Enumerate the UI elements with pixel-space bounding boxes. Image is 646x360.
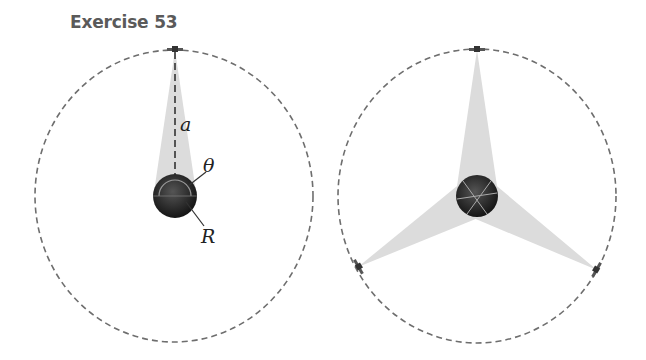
label-R: R — [200, 225, 215, 247]
right-figure — [338, 46, 616, 343]
label-a: a — [180, 113, 191, 135]
left-figure: a θ R — [35, 46, 313, 342]
right-coverage-cone-top — [456, 50, 498, 193]
diagram-canvas: a θ R — [0, 0, 646, 360]
right-satellite-bottom-right-icon — [590, 261, 603, 278]
right-satellite-top-icon — [469, 46, 485, 52]
right-satellite-bottom-left-icon — [352, 258, 365, 275]
left-satellite-icon — [167, 46, 183, 52]
label-theta: θ — [203, 154, 215, 176]
radius-leader-line — [186, 202, 204, 226]
